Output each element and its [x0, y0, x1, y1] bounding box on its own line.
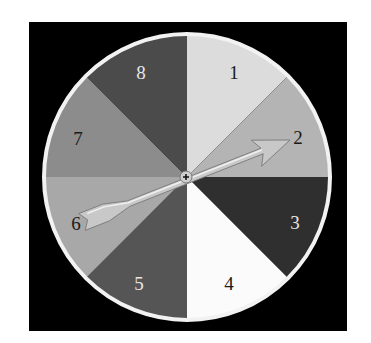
sector-label-2: 2 — [293, 127, 303, 148]
sector-label-7: 7 — [73, 128, 83, 149]
sector-label-4: 4 — [224, 273, 234, 294]
sector-label-5: 5 — [134, 273, 144, 294]
spinner-wheel: 12345678 — [0, 0, 371, 343]
sector-label-6: 6 — [71, 213, 81, 234]
sector-label-8: 8 — [136, 62, 146, 83]
sector-label-1: 1 — [229, 62, 239, 83]
sector-label-3: 3 — [290, 212, 300, 233]
